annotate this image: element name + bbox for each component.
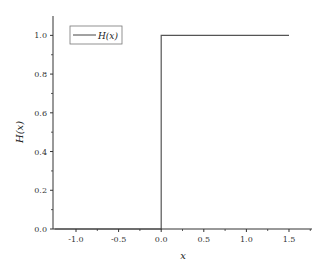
x-tick-label: 0.5 xyxy=(197,235,210,244)
y-tick-label: 0.4 xyxy=(34,148,47,157)
x-tick-label: 1.5 xyxy=(283,235,296,244)
legend-label: H(x) xyxy=(97,31,118,41)
x-tick-label: 1.0 xyxy=(240,235,253,244)
y-tick-label: 1.0 xyxy=(34,31,47,40)
plot-area xyxy=(55,35,289,229)
step-function-chart: -1.0-0.50.00.51.01.50.00.20.40.60.81.0 H… xyxy=(0,0,322,274)
series-line-heaviside xyxy=(55,35,289,229)
y-axis-title: H(x) xyxy=(14,121,25,144)
x-axis-title: x xyxy=(180,250,186,261)
y-tick-label: 0.6 xyxy=(34,109,47,118)
y-tick-label: 0.0 xyxy=(34,225,47,234)
y-tick-label: 0.8 xyxy=(34,70,47,79)
axes: -1.0-0.50.00.51.01.50.00.20.40.60.81.0 xyxy=(34,16,312,244)
x-tick-label: -0.5 xyxy=(111,235,126,244)
x-tick-label: -1.0 xyxy=(68,235,83,244)
y-tick-label: 0.2 xyxy=(34,186,47,195)
x-tick-label: 0.0 xyxy=(155,235,168,244)
legend: H(x) xyxy=(70,26,122,44)
